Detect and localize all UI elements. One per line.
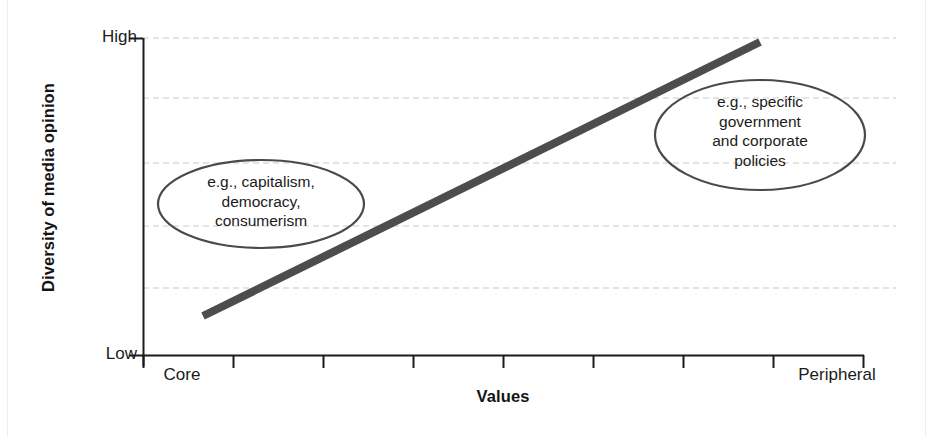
- x-tick-label-peripheral: Peripheral: [762, 365, 912, 385]
- annotation-peripheral-line-2: government: [660, 112, 860, 132]
- annotation-peripheral-line-1: e.g., specific: [660, 92, 860, 112]
- x-axis-label: Values: [403, 387, 603, 406]
- annotation-peripheral-line-3: and corporate: [660, 131, 860, 151]
- annotation-core-line-2: democracy,: [163, 192, 359, 212]
- annotation-core-line-1: e.g., capitalism,: [163, 172, 359, 192]
- chart-figure: Diversity of media opinion Values High L…: [0, 0, 939, 437]
- y-tick-label-low: Low: [85, 344, 137, 364]
- y-tick-label-high: High: [85, 27, 137, 47]
- annotation-core-line-3: consumerism: [163, 211, 359, 231]
- x-tick-label-core: Core: [132, 365, 232, 385]
- y-axis-label: Diversity of media opinion: [39, 78, 58, 298]
- annotation-peripheral-line-4: policies: [660, 151, 860, 171]
- annotation-peripheral-values: e.g., specific government and corporate …: [660, 92, 860, 170]
- annotation-core-values: e.g., capitalism, democracy, consumerism: [163, 172, 359, 231]
- x-axis-ticks: [144, 355, 864, 368]
